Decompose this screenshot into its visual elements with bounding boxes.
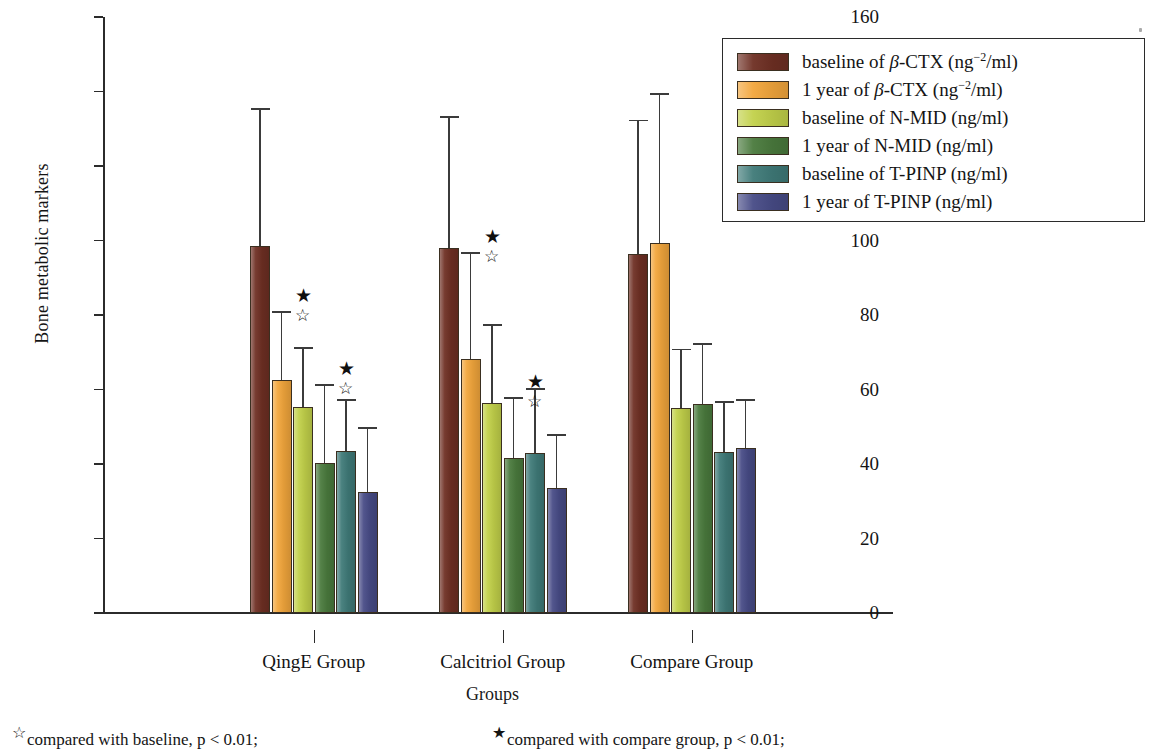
x-axis-tick [692, 630, 694, 643]
footnote-open-star: ☆compared with baseline, p < 0.01; [12, 723, 258, 750]
bar[interactable] [714, 452, 734, 613]
y-axis-tick-label: 100 [851, 231, 880, 250]
error-bar-cap [337, 399, 356, 401]
legend-item-baseline-beta-ctx[interactable]: baseline of β-CTX (ng−2/ml) [737, 48, 1144, 75]
y-axis-tick-label: 60 [860, 380, 879, 399]
legend-item-baseline-t-pinp[interactable]: baseline of T-PINP (ng/ml) [737, 160, 1144, 187]
error-bar-cap [440, 116, 459, 118]
error-bar-stem [659, 95, 661, 243]
error-bar-cap [294, 347, 313, 349]
bar[interactable] [439, 248, 459, 613]
significance-filled-star: ★ [295, 286, 312, 305]
error-bar-cap [736, 399, 755, 401]
error-bar-stem [702, 345, 704, 405]
y-axis-tick [94, 16, 103, 17]
error-bar-stem [513, 399, 515, 459]
legend: baseline of β-CTX (ng−2/ml)1 year of β-C… [722, 38, 1145, 222]
error-bar-stem [324, 386, 326, 463]
bar[interactable] [628, 254, 648, 613]
error-bar-stem [281, 313, 283, 380]
bar[interactable] [525, 453, 545, 613]
bar[interactable] [482, 403, 502, 613]
error-bar-cap [629, 120, 648, 122]
bar[interactable] [671, 408, 691, 613]
bar[interactable] [736, 448, 756, 613]
x-axis-tick [503, 630, 505, 643]
y-axis-tick [94, 240, 103, 241]
error-bar-cap [358, 427, 377, 429]
y-axis-tick-label: 40 [860, 454, 879, 473]
footnote-filled-star: ★compared with compare group, p < 0.01; [492, 723, 785, 750]
legend-label-year1-n-mid: 1 year of N-MID (ng/ml) [802, 136, 993, 156]
error-bar-cap [547, 434, 566, 436]
y-axis-tick-label: 160 [851, 7, 880, 26]
bar[interactable] [272, 380, 292, 613]
x-axis-tick [314, 630, 316, 643]
open-star-icon: ☆ [12, 724, 26, 741]
x-axis-title: Groups [466, 684, 519, 705]
y-axis-tick [94, 91, 103, 92]
bar[interactable] [293, 407, 313, 613]
error-bar-stem [723, 403, 725, 453]
bar[interactable] [504, 458, 524, 613]
x-axis-group-label: QingE Group [214, 651, 414, 673]
error-bar-stem [637, 121, 639, 253]
error-bar-cap [650, 93, 669, 95]
error-bar-stem [680, 350, 682, 408]
legend-item-year1-n-mid[interactable]: 1 year of N-MID (ng/ml) [737, 132, 1144, 159]
legend-swatch-baseline-t-pinp [737, 165, 789, 183]
legend-label-year1-beta-ctx: 1 year of β-CTX (ng−2/ml) [802, 79, 1003, 100]
error-bar-stem [745, 401, 747, 449]
error-bar-cap [483, 324, 502, 326]
error-bar-stem [345, 401, 347, 451]
legend-swatch-baseline-n-mid [737, 109, 789, 127]
legend-item-baseline-n-mid[interactable]: baseline of N-MID (ng/ml) [737, 104, 1144, 131]
significance-open-star: ☆ [484, 248, 499, 265]
bar[interactable] [358, 492, 378, 613]
bar-chart-figure: Bone metabolic markers Groups 0204060801… [0, 0, 1162, 754]
error-bar-cap [272, 311, 291, 313]
error-bar-cap [504, 397, 523, 399]
error-bar-stem [470, 254, 472, 359]
y-axis-tick [94, 463, 103, 464]
error-bar-cap [315, 384, 334, 386]
y-axis-title: Bone metabolic markers [32, 144, 53, 364]
significance-open-star: ☆ [527, 393, 542, 410]
legend-item-year1-t-pinp[interactable]: 1 year of T-PINP (ng/ml) [737, 188, 1144, 215]
error-bar-stem [448, 118, 450, 248]
bar[interactable] [693, 404, 713, 613]
legend-swatch-year1-n-mid [737, 137, 789, 155]
legend-swatch-baseline-beta-ctx [737, 53, 789, 71]
bar[interactable] [650, 243, 670, 613]
bar-group [250, 17, 379, 613]
error-bar-cap [672, 349, 691, 351]
error-bar-cap [715, 401, 734, 403]
error-bar-stem [367, 429, 369, 492]
scan-artifact-speck [1139, 28, 1142, 32]
y-axis-tick-label: 0 [870, 603, 880, 622]
error-bar-cap [251, 108, 270, 110]
error-bar-stem [556, 436, 558, 488]
y-axis-tick [94, 538, 103, 539]
error-bar-stem [302, 349, 304, 407]
bar[interactable] [547, 488, 567, 613]
y-axis-tick [94, 612, 103, 613]
bar[interactable] [336, 451, 356, 613]
y-axis-tick-label: 20 [860, 529, 879, 548]
x-axis-group-label: Calcitriol Group [403, 651, 603, 673]
bar-group [439, 17, 568, 613]
legend-label-baseline-t-pinp: baseline of T-PINP (ng/ml) [802, 164, 1008, 184]
filled-star-icon: ★ [492, 724, 506, 741]
error-bar-stem [259, 110, 261, 246]
bar[interactable] [315, 463, 335, 613]
legend-item-year1-beta-ctx[interactable]: 1 year of β-CTX (ng−2/ml) [737, 76, 1144, 103]
legend-label-baseline-n-mid: baseline of N-MID (ng/ml) [802, 108, 1008, 128]
y-axis-tick [94, 314, 103, 315]
significance-open-star: ☆ [295, 307, 310, 324]
legend-label-baseline-beta-ctx: baseline of β-CTX (ng−2/ml) [802, 51, 1018, 72]
bar[interactable] [250, 246, 270, 613]
error-bar-cap [461, 252, 480, 254]
footnote-filled-text: compared with compare group, p < 0.01; [507, 730, 785, 749]
bar[interactable] [461, 359, 481, 613]
significance-filled-star: ★ [338, 359, 355, 378]
